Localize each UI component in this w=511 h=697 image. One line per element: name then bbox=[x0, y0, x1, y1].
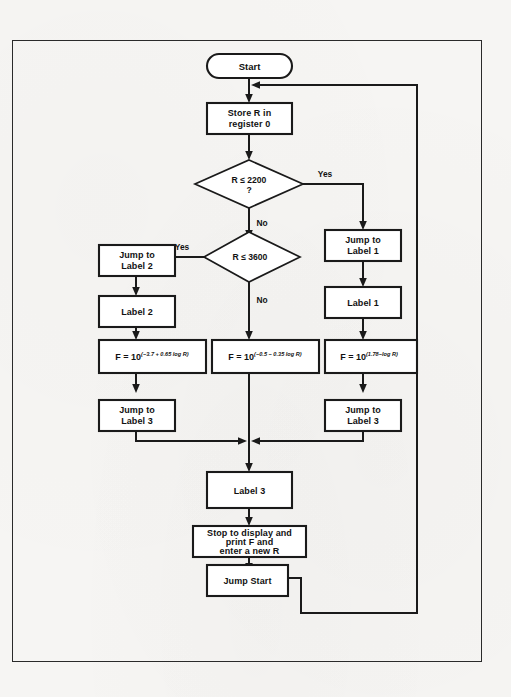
node-label3-label: Label 3 bbox=[234, 486, 266, 496]
node-decision-r-le-2200-label-line1: R ≤ 2200 bbox=[232, 175, 267, 185]
flowchart-page: Yes No Yes No Start Store R in register … bbox=[0, 0, 511, 697]
node-start-label: Start bbox=[239, 61, 261, 72]
node-store-register-label-line1: Store R in bbox=[228, 108, 272, 118]
node-store-register-label-line2: register 0 bbox=[229, 119, 271, 129]
flowchart-canvas: Yes No Yes No Start Store R in register … bbox=[0, 0, 511, 697]
node-label3[interactable]: Label 3 bbox=[207, 472, 292, 508]
node-stop-display[interactable]: Stop to display and print F and enter a … bbox=[193, 526, 306, 557]
node-label1[interactable]: Label 1 bbox=[325, 287, 401, 318]
edge-decision1-yes bbox=[303, 184, 363, 223]
node-jump-to-label1[interactable]: Jump to Label 1 bbox=[325, 230, 401, 261]
node-formula-center-exponent: (−0.5 − 0.35 log R) bbox=[254, 351, 302, 357]
node-decision-r-le-3600-label-line1: R ≤ 3600 bbox=[233, 252, 268, 262]
node-formula-right-base: F = 10 bbox=[340, 352, 366, 362]
node-formula-left-exponent: (−3.7 + 0.65 log R) bbox=[141, 351, 189, 357]
arrowhead-jumplabel2-to-label2 bbox=[132, 287, 140, 296]
arrowhead-formula-left-to-jump3 bbox=[132, 384, 140, 393]
node-formula-left-base: F = 10 bbox=[115, 352, 141, 362]
edge-jump3right-to-label3 bbox=[258, 431, 363, 441]
branch-label-decision1-yes: Yes bbox=[318, 169, 333, 179]
branch-label-decision2-yes: Yes bbox=[175, 242, 190, 252]
node-jump-start-label: Jump Start bbox=[223, 576, 271, 586]
node-jump-to-label3-left[interactable]: Jump to Label 3 bbox=[99, 400, 175, 431]
node-formula-right-exponent: (1.78−log R) bbox=[366, 351, 398, 357]
node-jump-to-label1-label-line2: Label 1 bbox=[347, 246, 379, 256]
branch-label-decision2-no: No bbox=[256, 295, 267, 305]
node-label1-label: Label 1 bbox=[347, 298, 379, 308]
node-jump-to-label2-label-line1: Jump to bbox=[119, 250, 155, 260]
node-formula-left[interactable]: F = 10(−3.7 + 0.65 log R) bbox=[99, 340, 206, 373]
node-stop-display-label-line3: enter a new R bbox=[220, 546, 280, 556]
arrowhead-jumplabel1-to-label1 bbox=[359, 278, 367, 287]
node-layer: Start Store R in register 0 R ≤ 2200 ? R… bbox=[99, 54, 417, 596]
node-jump-to-label3-right-label-line2: Label 3 bbox=[347, 416, 379, 426]
arrowhead-label1-to-formula-right bbox=[359, 331, 367, 340]
node-store-register[interactable]: Store R in register 0 bbox=[207, 103, 292, 134]
node-jump-to-label3-right-label-line1: Jump to bbox=[345, 405, 381, 415]
node-label2[interactable]: Label 2 bbox=[99, 296, 175, 327]
node-jump-to-label3-left-label-line2: Label 3 bbox=[121, 416, 153, 426]
branch-label-decision1-no: No bbox=[256, 218, 267, 228]
node-jump-to-label3-left-label-line1: Jump to bbox=[119, 405, 155, 415]
arrowhead-feedback-loop bbox=[251, 81, 260, 89]
arrowhead-decision1-yes bbox=[359, 221, 367, 230]
node-formula-right[interactable]: F = 10(1.78−log R) bbox=[325, 340, 417, 373]
edge-jump3left-to-label3 bbox=[136, 431, 240, 441]
node-formula-center[interactable]: F = 10(−0.5 − 0.35 log R) bbox=[212, 340, 319, 373]
arrowhead-jump3right-to-label3 bbox=[251, 437, 260, 445]
node-decision-r-le-2200[interactable]: R ≤ 2200 ? bbox=[195, 160, 303, 208]
node-start[interactable]: Start bbox=[207, 54, 292, 78]
arrowhead-label3-to-stop bbox=[245, 517, 253, 526]
node-jump-to-label3-right[interactable]: Jump to Label 3 bbox=[325, 400, 401, 431]
node-decision-r-le-3600[interactable]: R ≤ 3600 bbox=[204, 232, 300, 282]
arrowhead-start-to-store bbox=[245, 94, 253, 103]
node-jump-start[interactable]: Jump Start bbox=[207, 565, 288, 596]
arrowhead-label2-to-formula-left bbox=[132, 331, 140, 340]
arrowhead-formula-right-to-jump3 bbox=[359, 384, 367, 393]
node-jump-to-label1-label-line1: Jump to bbox=[345, 235, 381, 245]
node-formula-center-base: F = 10 bbox=[228, 352, 254, 362]
node-label2-label: Label 2 bbox=[121, 307, 153, 317]
node-jump-to-label2-label-line2: Label 2 bbox=[121, 261, 153, 271]
arrowhead-decision2-no bbox=[245, 331, 253, 340]
arrowhead-jump3left-to-label3 bbox=[238, 437, 247, 445]
arrowhead-store-to-decision1 bbox=[245, 151, 253, 160]
node-jump-to-label2[interactable]: Jump to Label 2 bbox=[99, 245, 175, 276]
arrowhead-formula-center-to-label3 bbox=[245, 463, 253, 472]
node-decision-r-le-2200-label-line2: ? bbox=[246, 185, 251, 195]
